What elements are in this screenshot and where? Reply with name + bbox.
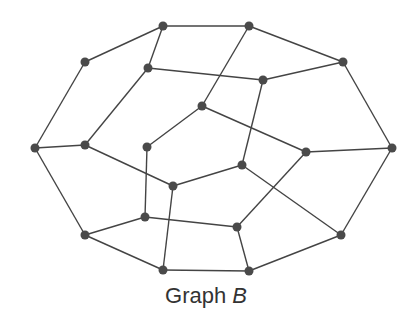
edge-H-I [35, 145, 85, 148]
edge-H-Q [35, 148, 85, 235]
edge-N-S [163, 186, 173, 270]
node-C [81, 58, 90, 67]
edge-T-R [249, 235, 341, 271]
edge-C-H [35, 62, 85, 148]
edge-F-K [242, 80, 263, 165]
edge-E-M [343, 62, 392, 148]
node-A [159, 22, 168, 31]
node-O [141, 213, 150, 222]
edge-F-E [263, 62, 343, 80]
edge-R-M [341, 148, 392, 235]
node-E [339, 58, 348, 67]
edge-D-F [148, 68, 263, 80]
node-L [302, 148, 311, 157]
edge-B-G [202, 26, 249, 106]
node-B [245, 22, 254, 31]
node-F [259, 76, 268, 85]
caption-prefix: Graph [165, 283, 232, 308]
edge-S-T [163, 270, 249, 271]
graph-diagram [0, 0, 412, 325]
node-S [159, 266, 168, 275]
node-N [169, 182, 178, 191]
node-P [233, 223, 242, 232]
node-J [143, 143, 152, 152]
node-D [144, 64, 153, 73]
node-H [31, 144, 40, 153]
edge-D-I [85, 68, 148, 145]
caption-label: B [232, 283, 247, 308]
edge-A-C [85, 26, 163, 62]
edge-G-L [202, 106, 306, 152]
graph-caption: Graph B [0, 283, 412, 309]
edge-Q-S [85, 235, 163, 270]
edge-L-P [237, 152, 306, 227]
node-T [245, 267, 254, 276]
node-R [337, 231, 346, 240]
edge-K-R [242, 165, 341, 235]
edge-P-T [237, 227, 249, 271]
node-Q [81, 231, 90, 240]
edge-O-Q [85, 217, 145, 235]
graph-nodes [31, 22, 397, 276]
node-G [198, 102, 207, 111]
node-M [388, 144, 397, 153]
edge-J-O [145, 147, 147, 217]
edge-L-M [306, 148, 392, 152]
edge-I-N [85, 145, 173, 186]
edge-B-E [249, 26, 343, 62]
edge-N-K [173, 165, 242, 186]
edge-G-J [147, 106, 202, 147]
edge-O-P [145, 217, 237, 227]
node-K [238, 161, 247, 170]
node-I [81, 141, 90, 150]
